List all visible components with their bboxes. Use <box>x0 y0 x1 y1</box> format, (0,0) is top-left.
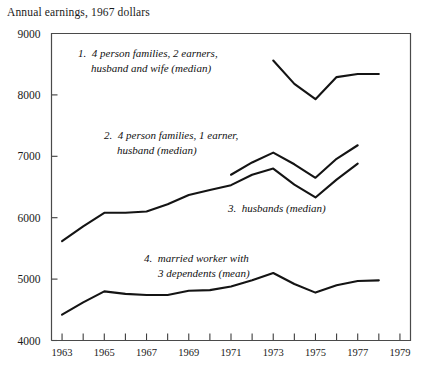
y-tick-label: 5000 <box>18 273 41 285</box>
x-axis-tick-marks <box>62 334 400 341</box>
x-tick-label: 1963 <box>52 347 73 358</box>
x-tick-label: 1979 <box>389 347 410 358</box>
y-tick-label: 8000 <box>18 89 41 101</box>
y-axis-tick-marks <box>52 95 58 341</box>
y-tick-label: 7000 <box>18 150 41 162</box>
x-tick-label: 1973 <box>263 347 284 358</box>
annotation-line2: husband (median) <box>104 143 238 158</box>
annotation-line2: husband and wife (median) <box>78 61 218 76</box>
annotation-number: 3. <box>228 202 236 214</box>
annotation-line1: husbands (median) <box>242 202 326 214</box>
x-axis-tick-labels: 196319651967196919711973197519771979 <box>52 347 411 358</box>
plot-frame <box>52 34 411 341</box>
series-annotation-3: 3. husbands (median) <box>228 201 326 216</box>
x-tick-label: 1971 <box>221 347 242 358</box>
x-tick-label: 1965 <box>94 347 115 358</box>
chart-figure: Annual earnings, 1967 dollars 9000800070… <box>0 0 431 375</box>
x-tick-label: 1977 <box>347 347 368 358</box>
series-annotation-4: 4. married worker with3 dependents (mean… <box>144 251 250 280</box>
annotation-line1: married worker with <box>158 252 249 264</box>
annotation-number: 4. <box>144 252 152 264</box>
series-line-1 <box>273 61 379 100</box>
series-annotation-2: 2. 4 person families, 1 earner,husband (… <box>104 128 238 157</box>
series-annotation-1: 1. 4 person families, 2 earners,husband … <box>78 46 218 75</box>
annotation-number: 1. <box>78 47 86 59</box>
y-tick-label: 6000 <box>18 212 41 224</box>
annotation-line1: 4 person families, 2 earners, <box>92 47 218 59</box>
annotation-line2: 3 dependents (mean) <box>144 266 250 281</box>
series-line-2 <box>231 145 358 178</box>
x-tick-label: 1975 <box>305 347 326 358</box>
x-tick-label: 1969 <box>178 347 199 358</box>
x-tick-label: 1967 <box>136 347 157 358</box>
annotation-line1: 4 person families, 1 earner, <box>118 129 238 141</box>
y-tick-label: 9000 <box>18 28 41 40</box>
y-axis-tick-labels: 900080007000600050004000 <box>18 28 41 347</box>
y-tick-label: 4000 <box>18 335 41 347</box>
annotation-number: 2. <box>104 129 112 141</box>
